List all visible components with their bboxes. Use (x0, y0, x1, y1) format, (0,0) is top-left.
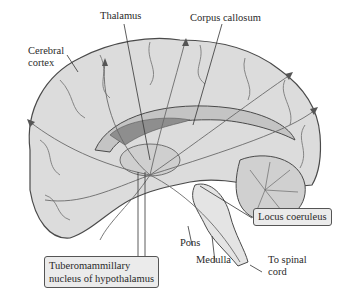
locus-coeruleus-label: Locus coeruleus (253, 208, 332, 226)
tmn-label-line2: nucleus of hypothalamus (49, 272, 154, 285)
cerebral-cortex-label-line1: Cerebral (28, 45, 64, 57)
spinal-cord-label-line1: To spinal (268, 254, 307, 266)
medulla-label: Medulla (196, 254, 231, 266)
cerebral-cortex-label-line2: cortex (28, 57, 54, 69)
spinal-cord-label-line2: cord (268, 266, 287, 278)
tmn-label-line1: Tuberomammillary (49, 259, 154, 272)
pons-label: Pons (180, 237, 200, 249)
corpus-callosum-label: Corpus callosum (190, 12, 261, 24)
tuberomammillary-label: Tuberomammillary nucleus of hypothalamus (44, 256, 159, 288)
thalamus-label: Thalamus (100, 10, 141, 22)
